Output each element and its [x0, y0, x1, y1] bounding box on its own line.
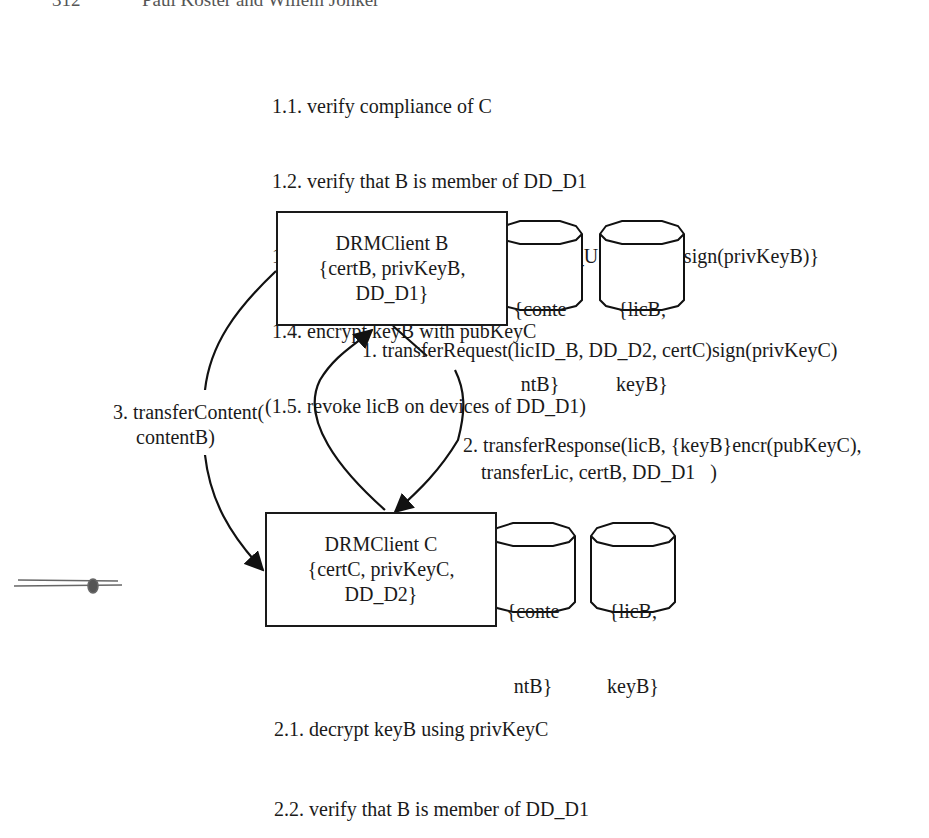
step-2-2: 2.2. verify that B is member of DD_D1 — [274, 796, 599, 823]
node-title: DRMClient B — [278, 231, 506, 256]
store-b-license: {licB, keyB} — [600, 247, 684, 422]
store-label: {licB, — [591, 599, 675, 624]
store-c-license: {licB, keyB} — [591, 549, 675, 724]
edge-label-transfer-response-2: transferLic, certB, DD_D1 ) — [481, 460, 717, 485]
edge-label-transfer-content-2: contentB) — [136, 425, 215, 450]
store-b-content: {conte ntB} — [498, 247, 582, 422]
client-c-steps: 2.1. decrypt keyB using privKeyC 2.2. ve… — [274, 663, 599, 838]
store-label: keyB} — [600, 372, 684, 397]
store-label: {conte — [498, 297, 582, 322]
store-label: keyB} — [591, 674, 675, 699]
node-attrs: DD_D2} — [267, 582, 495, 607]
drm-client-b-node: DRMClient B {certB, privKeyB, DD_D1} — [276, 211, 508, 326]
node-title: DRMClient C — [267, 532, 495, 557]
node-attrs: DD_D1} — [278, 281, 506, 306]
node-attrs: {certB, privKeyB, — [278, 256, 506, 281]
step-2-1: 2.1. decrypt keyB using privKeyC — [274, 716, 599, 743]
edge-label-transfer-request: 1. transferRequest(licID_B, DD_D2, certC… — [362, 338, 837, 363]
store-label: ntB} — [498, 372, 582, 397]
store-label: {licB, — [600, 297, 684, 322]
scan-artifact — [14, 579, 122, 593]
store-label: {conte — [491, 599, 575, 624]
node-attrs: {certC, privKeyC, — [267, 557, 495, 582]
edge-label-transfer-content-1: 3. transferContent( — [113, 400, 264, 425]
edge-label-transfer-response-1: 2. transferResponse(licB, {keyB}encr(pub… — [463, 433, 862, 458]
drm-client-c-node: DRMClient C {certC, privKeyC, DD_D2} — [265, 512, 497, 627]
